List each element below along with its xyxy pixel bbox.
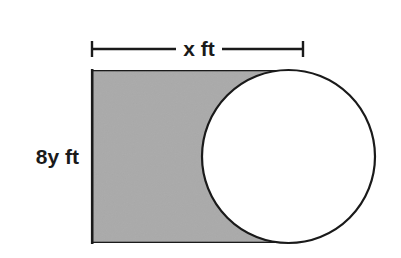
width-dimension-label: x ft	[183, 37, 215, 60]
height-dimension: 8y ft	[36, 145, 79, 168]
circle-shape	[202, 70, 375, 243]
figure-svg: x ft 8y ft	[0, 0, 401, 258]
height-dimension-label: 8y ft	[36, 145, 79, 168]
geometry-figure: x ft 8y ft	[0, 0, 401, 258]
